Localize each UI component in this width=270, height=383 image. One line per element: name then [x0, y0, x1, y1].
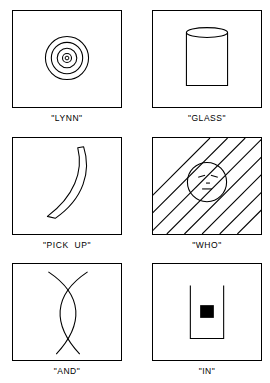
panel-caption: "LYNN" — [12, 113, 122, 123]
panel-caption: "WHO" — [152, 240, 262, 250]
panel-frame — [12, 137, 122, 235]
panel-caption: "IN" — [152, 366, 262, 376]
figure-sheet: "LYNN" "GLASS" "PICK UP" — [0, 0, 270, 383]
panel-in: "IN" — [152, 263, 264, 376]
panel-pick-up: "PICK UP" — [12, 137, 124, 250]
face-behind-hatching-drawing — [153, 138, 261, 234]
panel-frame — [12, 263, 122, 361]
panel-caption: "AND" — [12, 366, 122, 376]
cylinder-glass-drawing — [153, 11, 261, 107]
concentric-circles-drawing — [13, 11, 121, 107]
crescent-curve-drawing — [13, 138, 121, 234]
square-in-container-drawing — [153, 264, 261, 360]
panel-frame — [152, 263, 262, 361]
panel-lynn: "LYNN" — [12, 10, 124, 123]
hatch-lines — [153, 138, 261, 234]
solid-square — [200, 305, 214, 318]
panel-frame — [152, 137, 262, 235]
panel-caption: "GLASS" — [152, 113, 262, 123]
panel-who: "WHO" — [152, 137, 264, 250]
panel-frame — [152, 10, 262, 108]
panel-glass: "GLASS" — [152, 10, 264, 123]
panel-caption: "PICK UP" — [12, 240, 122, 250]
crossing-arcs-drawing — [13, 264, 121, 360]
panel-frame — [12, 10, 122, 108]
panel-and: "AND" — [12, 263, 124, 376]
